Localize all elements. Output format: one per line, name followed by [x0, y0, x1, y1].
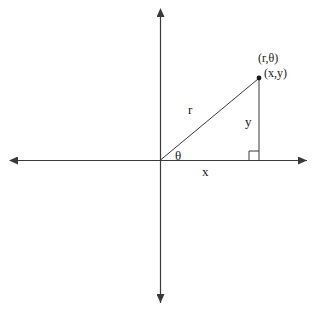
diagram-canvas: r θ x y (r,θ) (x,y): [0, 0, 325, 318]
y-component-label: y: [245, 115, 252, 128]
right-angle-marker: [249, 151, 259, 160]
angle-theta-label: θ: [175, 149, 181, 162]
polar-coordinate-label: (r,θ): [258, 52, 278, 64]
radius-label: r: [188, 103, 192, 116]
cartesian-coordinate-label: (x,y): [264, 67, 287, 79]
x-component-label: x: [202, 165, 209, 178]
coordinate-diagram-svg: [0, 0, 325, 318]
point-marker: [257, 76, 262, 81]
